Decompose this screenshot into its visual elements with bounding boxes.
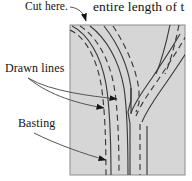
sewing-diagram-illustration bbox=[0, 0, 192, 181]
leader-cut-here bbox=[70, 7, 86, 21]
